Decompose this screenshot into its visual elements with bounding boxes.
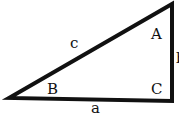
triangle-diagram: c A B C a b bbox=[0, 0, 179, 115]
angle-label-a: A bbox=[150, 25, 162, 43]
angle-label-c: C bbox=[151, 80, 162, 98]
angle-label-b: B bbox=[47, 80, 58, 98]
side-label-b: b bbox=[176, 49, 179, 67]
right-triangle bbox=[9, 4, 172, 101]
side-label-a: a bbox=[91, 99, 100, 115]
side-label-c: c bbox=[70, 34, 78, 52]
